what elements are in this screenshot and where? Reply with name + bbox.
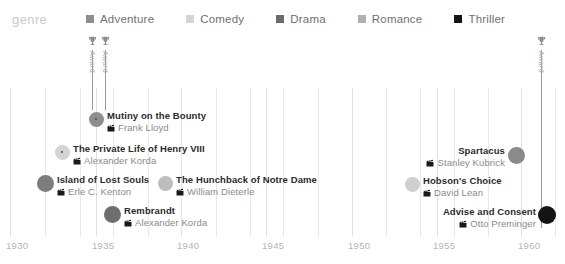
film-label: Island of Lost SoulsErle C. Kenton [57, 174, 149, 197]
film-label: The Private Life of Henry VIIIAlexander … [73, 143, 205, 166]
data-point-center [61, 151, 63, 153]
gridline [216, 88, 217, 237]
film-director-row: Alexander Korda [73, 155, 205, 166]
x-tick-label: 1930 [6, 240, 28, 251]
film-director-row: Otto Preminger [443, 218, 536, 229]
film-director-row: David Lean [423, 187, 502, 198]
trophy-icon [537, 36, 546, 49]
film-title: Mutiny on the Bounty [107, 110, 206, 121]
legend-item-label: Drama [290, 13, 326, 25]
clapperboard-icon [459, 220, 467, 228]
award-marker-3-stem [541, 50, 542, 228]
film-director-row: Alexander Korda [124, 217, 207, 228]
legend-title: genre [12, 12, 47, 27]
data-point[interactable] [538, 206, 556, 224]
scatter-plot-area: AwardAwardAward Mutiny on the BountyFran… [0, 34, 565, 237]
award-marker-3-label: Award [538, 51, 545, 73]
clapperboard-icon [124, 219, 132, 227]
film-label: Hobson's ChoiceDavid Lean [423, 175, 502, 198]
x-tick-label: 1950 [348, 240, 370, 251]
film-director-row: Stanley Kubrick [426, 157, 505, 168]
film-director: Erle C. Kenton [68, 186, 131, 197]
legend-item-label: Thriller [468, 13, 505, 25]
film-director: Frank Lloyd [118, 122, 169, 133]
legend-swatch-adventure [86, 15, 94, 23]
legend-swatch-comedy [186, 15, 194, 23]
film-label: Advise and ConsentOtto Preminger [443, 206, 536, 229]
data-point[interactable] [508, 147, 525, 164]
data-point-center [95, 118, 97, 120]
film-title: Spartacus [426, 145, 505, 156]
gridline [250, 88, 251, 237]
film-title: The Private Life of Henry VIII [73, 143, 205, 154]
film-title: Rembrandt [124, 205, 207, 216]
data-point[interactable] [104, 206, 121, 223]
film-director-row: Frank Lloyd [107, 122, 206, 133]
film-director: Alexander Korda [84, 155, 156, 166]
legend-item-label: Comedy [200, 13, 244, 25]
trophy-icon [101, 36, 110, 49]
legend-swatch-thriller [454, 15, 462, 23]
film-label: Mutiny on the BountyFrank Lloyd [107, 110, 206, 133]
legend-item-romance[interactable]: Romance [358, 13, 423, 25]
film-director: William Dieterle [187, 186, 255, 197]
legend-swatch-drama [276, 15, 284, 23]
film-label: SpartacusStanley Kubrick [426, 145, 505, 168]
legend-item-adventure[interactable]: Adventure [86, 13, 154, 25]
x-tick-label: 1945 [262, 240, 284, 251]
film-title: Island of Lost Souls [57, 174, 149, 185]
gridline [45, 88, 46, 237]
x-tick-label: 1960 [518, 240, 540, 251]
film-director-row: Erle C. Kenton [57, 186, 149, 197]
gridline [386, 88, 387, 237]
film-director: David Lean [434, 187, 483, 198]
gridline [283, 88, 284, 237]
clapperboard-icon [73, 157, 81, 165]
film-title: The Hunchback of Notre Dame [176, 174, 317, 185]
x-tick-label: 1935 [92, 240, 114, 251]
gridline [318, 88, 319, 237]
clapperboard-icon [426, 159, 434, 167]
film-label: RembrandtAlexander Korda [124, 205, 207, 228]
legend-item-comedy[interactable]: Comedy [186, 13, 244, 25]
gridline-major [266, 88, 267, 237]
data-point[interactable] [405, 177, 420, 192]
film-director: Stanley Kubrick [437, 157, 505, 168]
clapperboard-icon [176, 188, 184, 196]
film-director: Alexander Korda [135, 217, 207, 228]
film-director-row: William Dieterle [176, 186, 317, 197]
legend-swatch-romance [358, 15, 366, 23]
award-marker-2-label: Award [102, 51, 109, 73]
film-director: Otto Preminger [470, 218, 536, 229]
x-tick-label: 1955 [433, 240, 455, 251]
film-title: Hobson's Choice [423, 175, 502, 186]
legend-item-drama[interactable]: Drama [276, 13, 326, 25]
x-tick-label: 1940 [177, 240, 199, 251]
gridline-major [10, 88, 11, 237]
film-label: The Hunchback of Notre DameWilliam Diete… [176, 174, 317, 197]
legend-item-label: Adventure [100, 13, 154, 25]
data-point[interactable] [37, 175, 54, 192]
clapperboard-icon [423, 189, 431, 197]
legend: genre AdventureComedyDramaRomanceThrille… [0, 0, 565, 34]
clapperboard-icon [57, 188, 65, 196]
legend-items: AdventureComedyDramaRomanceThriller [86, 13, 537, 25]
legend-item-label: Romance [372, 13, 423, 25]
x-axis: 1930193519401945195019551960 [0, 237, 565, 264]
trophy-icon [88, 36, 97, 49]
award-marker-1-label: Award [89, 51, 96, 73]
gridline-major [352, 88, 353, 237]
gridline [420, 88, 421, 237]
data-point[interactable] [158, 176, 173, 191]
clapperboard-icon [107, 124, 115, 132]
film-title: Advise and Consent [443, 206, 536, 217]
legend-item-thriller[interactable]: Thriller [454, 13, 505, 25]
